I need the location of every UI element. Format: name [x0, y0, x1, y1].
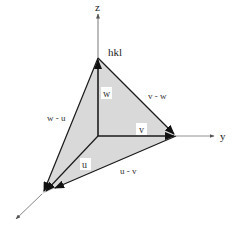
- z-axis-label: z: [95, 1, 100, 13]
- vector-w-label: w: [103, 88, 111, 99]
- edge-u-minus-v-label: u - v: [120, 166, 137, 176]
- edge-v-minus-w-label: v - w: [148, 91, 167, 101]
- vector-v-label: v: [139, 124, 144, 135]
- vertex-hkl-label: hkl: [108, 46, 122, 58]
- diagram-canvas: z y hkl w v u v - w w - u u - v: [0, 0, 232, 225]
- vector-u-label: u: [82, 159, 87, 170]
- hkl-plane-diagram: z y hkl w v u v - w w - u u - v: [0, 0, 232, 225]
- y-axis-label: y: [220, 130, 226, 142]
- edge-w-minus-u-label: w - u: [47, 113, 66, 123]
- x-axis: [16, 194, 42, 219]
